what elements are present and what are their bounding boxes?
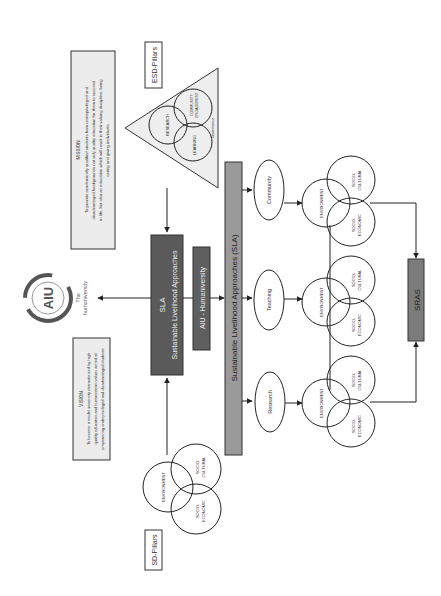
- aiu-logo: AIU The humaniversity: [25, 275, 88, 321]
- svg-text:Community: Community: [266, 176, 272, 204]
- arrow-community-venn-to-sras: [370, 203, 416, 258]
- svg-text:COMMUNITY: COMMUNITY: [190, 93, 194, 116]
- svg-text:Sustainable Livelihood Approac: Sustainable Livelihood Approaches: [171, 250, 179, 359]
- svg-text:SOCIO-: SOCIO-: [351, 317, 356, 332]
- svg-text:AIU - Humaniversity: AIU - Humaniversity: [199, 266, 207, 329]
- svg-text:SOCIO-: SOCIO-: [195, 459, 200, 474]
- svg-text:CULTURAL: CULTURAL: [201, 456, 206, 478]
- mission-title: MISSION: [76, 140, 81, 159]
- svg-text:empowering underprivileged and: empowering underprivileged and disadvant…: [100, 348, 105, 449]
- svg-text:ENVIRONMENT: ENVIRONMENT: [319, 287, 324, 317]
- svg-text:To become a model university c: To become a model university characteriz…: [86, 353, 91, 445]
- svg-text:Sustainable Livelihood Approac: Sustainable Livelihood Approaches (SLA): [230, 234, 239, 382]
- svg-text:VISION: VISION: [79, 391, 84, 406]
- mission-box: MISSION To provide academically qualifie…: [71, 51, 115, 249]
- svg-text:ECONOMIC: ECONOMIC: [201, 500, 206, 522]
- venn-research: ENVIRONMENT SOCIO- CULTURAL SOCIO- ECONO…: [302, 356, 375, 447]
- svg-text:SOCIO-: SOCIO-: [351, 217, 356, 232]
- svg-text:ECONOMIC: ECONOMIC: [357, 214, 362, 236]
- mission-line: To provide academically qualified studen…: [84, 86, 89, 213]
- framework-diagram: MISSION To provide academically qualifie…: [0, 0, 441, 596]
- venn-community: ENVIRONMENT SOCIO- CULTURAL SOCIO- ECONO…: [302, 156, 375, 246]
- svg-text:The: The: [75, 293, 81, 302]
- venn-teaching: ENVIRONMENT SOCIO- CULTURAL SOCIO- ECONO…: [302, 256, 375, 346]
- svg-text:ENVIRONMENT: ENVIRONMENT: [319, 388, 324, 418]
- mission-line: in life, but also an education which wil…: [98, 79, 103, 221]
- svg-text:ESD-Pillars: ESD-Pillars: [151, 47, 158, 83]
- svg-text:RESEARCH: RESEARCH: [165, 114, 170, 136]
- sla-bar: Sustainable Livelihood Approaches (SLA): [225, 162, 242, 455]
- svg-text:SOCIO-: SOCIO-: [195, 503, 200, 518]
- logo-mark: AIU: [41, 287, 56, 309]
- svg-text:CULTURAL: CULTURAL: [357, 369, 362, 391]
- svg-text:CULTURAL: CULTURAL: [357, 269, 362, 291]
- svg-text:ENGAGEMENT: ENGAGEMENT: [195, 91, 199, 117]
- svg-text:ECONOMIC: ECONOMIC: [357, 314, 362, 336]
- sras-box: SRAS: [408, 259, 424, 341]
- svg-text:SD-Pillars: SD-Pillars: [151, 534, 158, 566]
- sd-pillars-label: SD-Pillars: [145, 530, 162, 570]
- svg-text:ENVIRONMENT: ENVIRONMENT: [161, 472, 166, 502]
- svg-text:LEARNING: LEARNING: [192, 135, 197, 155]
- svg-text:ENVIRONMENT: ENVIRONMENT: [319, 188, 324, 218]
- svg-text:quality education and humanita: quality education and humanitarian value…: [93, 353, 98, 445]
- svg-text:Research: Research: [267, 390, 273, 414]
- svg-text:SOCIO-: SOCIO-: [351, 172, 356, 187]
- svg-text:ECONOMIC: ECONOMIC: [357, 415, 362, 437]
- esd-pillars-label: ESD-Pillars: [145, 42, 162, 88]
- svg-text:SLA: SLA: [158, 297, 167, 313]
- sla-box: SLA Sustainable Livelihood Approaches: [151, 235, 183, 375]
- svg-text:SOCIO-: SOCIO-: [351, 418, 356, 433]
- esd-triangle: RESEARCH COMMUNITY ENGAGEMENT LEARNING G…: [125, 68, 218, 188]
- aiu-humaniversity-box: AIU - Humaniversity: [193, 247, 210, 350]
- sd-pillars-venn: ENVIRONMENT SOCIO- CULTURAL SOCIO- ECONO…: [143, 444, 221, 534]
- svg-text:Teaching: Teaching: [266, 289, 272, 311]
- activity-research: Research: [255, 372, 285, 432]
- arrow-research-venn-to-sras: [370, 342, 416, 402]
- mission-line: disadvantaged backgrounds not only quali…: [91, 80, 96, 219]
- mission-line: caring and giving individuals.: [105, 123, 110, 177]
- svg-text:SOCIO-: SOCIO-: [351, 372, 356, 387]
- svg-text:humaniversity: humaniversity: [82, 281, 88, 315]
- svg-text:Governance: Governance: [211, 118, 215, 139]
- svg-text:CULTURAL: CULTURAL: [357, 169, 362, 191]
- venn-circle-environment: [143, 462, 193, 512]
- venn-circle-environment: [302, 278, 350, 326]
- svg-text:SOCIO-: SOCIO-: [351, 272, 356, 287]
- svg-text:SRAS: SRAS: [413, 289, 422, 311]
- vision-box: VISION To become a model university char…: [73, 338, 110, 460]
- activity-community: Community: [254, 160, 284, 220]
- activity-teaching: Teaching: [254, 270, 284, 330]
